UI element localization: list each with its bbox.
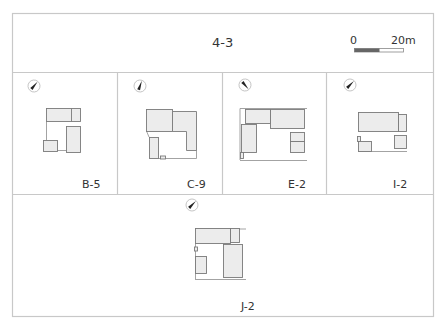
plan-e2 <box>240 109 307 161</box>
panel-label-e2: E-2 <box>288 178 306 191</box>
plan-c9 <box>147 110 197 160</box>
panel-label-j2: J-2 <box>241 300 255 313</box>
north-arrow-icon-j2 <box>184 197 201 214</box>
north-arrow-icon-c9 <box>132 78 147 93</box>
plan-b5 <box>44 109 81 153</box>
scale-start-label: 0 <box>350 34 357 47</box>
figure-title: 4-3 <box>212 35 233 50</box>
north-arrow-icon-e2 <box>237 77 254 94</box>
frame-grid <box>13 14 434 317</box>
scale-bar <box>355 49 404 53</box>
plan-j2 <box>195 229 247 280</box>
panel-label-c9: C-9 <box>187 178 206 191</box>
scale-end-label: 20m <box>391 34 416 47</box>
panel-label-b5: B-5 <box>82 178 101 191</box>
north-arrow-icon-b5 <box>26 78 43 95</box>
north-arrow-icon-i2 <box>342 77 359 94</box>
plan-i2 <box>358 113 408 152</box>
panel-label-i2: I-2 <box>393 178 407 191</box>
